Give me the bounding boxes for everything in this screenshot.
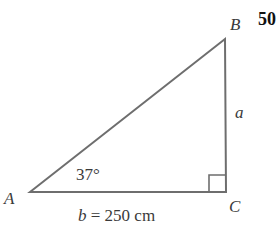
problem-number: 50 bbox=[258, 10, 276, 28]
vertex-label-c: C bbox=[229, 198, 240, 215]
angle-label: 37° bbox=[76, 166, 100, 183]
vertex-label-b: B bbox=[230, 16, 240, 33]
side-label-a: a bbox=[235, 104, 244, 121]
side-label-b-text: = 250 cm bbox=[87, 206, 156, 225]
vertex-label-a: A bbox=[4, 190, 14, 207]
right-angle-marker bbox=[209, 175, 226, 192]
triangle-abc bbox=[30, 39, 226, 192]
side-label-b: b = 250 cm bbox=[78, 207, 155, 224]
